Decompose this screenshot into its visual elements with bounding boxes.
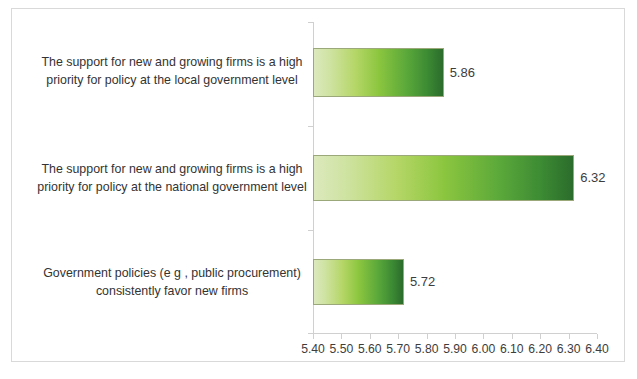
- category-label-line: The support for new and growing firms is…: [27, 54, 317, 72]
- category-label-line: The support for new and growing firms is…: [27, 161, 317, 179]
- bar-value-label: 6.32: [580, 171, 605, 184]
- x-axis-tick: [427, 334, 428, 339]
- x-axis-tick: [341, 334, 342, 339]
- category-label-line: consistently favor new firms: [27, 283, 317, 301]
- category-axis-tick: [308, 230, 313, 231]
- category-label-public-procurement: Government policies (e g , public procur…: [27, 265, 317, 301]
- x-axis-tick: [597, 334, 598, 339]
- x-axis-tick: [370, 334, 371, 339]
- x-axis-tick: [455, 334, 456, 339]
- category-label-line: priority for policy at the local governm…: [27, 72, 317, 90]
- bar-local-government[interactable]: [313, 48, 444, 97]
- bar-value-label: 5.72: [410, 275, 435, 288]
- x-axis-tick: [483, 334, 484, 339]
- category-label-national-government: The support for new and growing firms is…: [27, 161, 317, 197]
- plot-area: 5.86 6.32 5.72 The support for new and g…: [0, 0, 637, 379]
- category-label-line: Government policies (e g , public procur…: [27, 265, 317, 283]
- x-axis-tick: [569, 334, 570, 339]
- bar-national-government[interactable]: [313, 155, 574, 201]
- bar-chart: 5.86 6.32 5.72 The support for new and g…: [0, 0, 637, 379]
- x-axis-tick-label: 6.40: [579, 342, 615, 356]
- category-label-local-government: The support for new and growing firms is…: [27, 54, 317, 90]
- x-axis-tick: [540, 334, 541, 339]
- bar-value-label: 5.86: [450, 66, 475, 79]
- x-axis-tick: [398, 334, 399, 339]
- bar-public-procurement[interactable]: [313, 259, 404, 305]
- x-axis-tick: [512, 334, 513, 339]
- x-axis-tick: [313, 334, 314, 339]
- category-axis-tick: [308, 126, 313, 127]
- category-label-line: priority for policy at the national gove…: [27, 179, 317, 197]
- category-axis-tick: [308, 22, 313, 23]
